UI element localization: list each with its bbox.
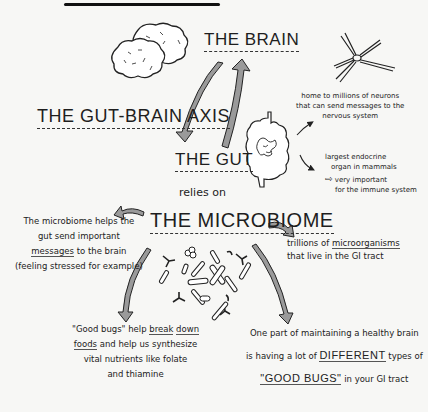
messages-note-line: (feeling stressed for example) [15, 259, 143, 274]
endocrine-note: largest endocrine organ in mammals ⇨ ver… [325, 152, 417, 195]
trillions-note-line: trillions of microorganisms [287, 237, 400, 250]
good-bugs-note-line: and thiamine [72, 367, 199, 382]
trillions-pre: trillions of [287, 238, 332, 248]
endocrine-note-line: largest endocrine [325, 152, 417, 162]
neurons-note: home to millions of neurons that can sen… [296, 91, 404, 121]
brain-icon [112, 23, 188, 77]
messages-underlined: messages [31, 246, 74, 257]
immune-note-line: very important [335, 176, 387, 184]
messages-note: The microbiome helps the gut send import… [15, 214, 143, 274]
messages-note-line: gut send important [15, 229, 143, 244]
bacteria-cluster-icon [159, 247, 251, 321]
relies-on-label: relies on [179, 186, 226, 199]
down-underlined: down [176, 324, 199, 335]
good-bugs-pre: "Good bugs" help [72, 324, 149, 334]
arrow-neurons-icon [297, 123, 311, 135]
microorganisms-underlined: microorganisms [332, 238, 400, 249]
trillions-note-line: that live in the GI tract [287, 250, 400, 263]
healthy-brain-note-line: is having a lot of DIFFERENT types of [246, 344, 423, 367]
healthy-brain-note: One part of maintaining a healthy brain … [246, 322, 423, 390]
gut-title: THE GUT [175, 150, 253, 172]
curved-arrow-icon [176, 59, 250, 148]
gi-tract-post: in your GI tract [341, 374, 408, 384]
good-bugs-rest: and help us synthesize [97, 339, 197, 349]
neurons-note-line: that can send messages to the [296, 101, 404, 111]
good-bugs-note: "Good bugs" help break down foods and he… [72, 322, 199, 382]
neuron-icon [334, 33, 395, 82]
arrow-endocrine-icon [300, 155, 312, 169]
brain-title: THE BRAIN [204, 30, 299, 52]
neurons-note-line: nervous system [296, 111, 404, 121]
good-bugs-underlined: "GOOD BUGS" [260, 372, 341, 385]
healthy-brain-post: types of [386, 351, 423, 361]
endocrine-note-line: organ in mammals [325, 162, 417, 172]
hollow-arrow-icon: ⇨ [325, 174, 333, 184]
break-underlined: break [149, 324, 173, 335]
different-underlined: DIFFERENT [319, 349, 385, 362]
healthy-brain-pre: is having a lot of [246, 351, 319, 361]
good-bugs-note-line: foods and help us synthesize [72, 337, 199, 352]
good-bugs-note-line: "Good bugs" help break down [72, 322, 199, 337]
messages-note-line: messages to the brain [15, 244, 143, 259]
gut-brain-axis-title: THE GUT-BRAIN AXIS [37, 106, 230, 129]
immune-note: ⇨ very important [325, 174, 417, 185]
good-bugs-note-line: vital nutrients like folate [72, 352, 199, 367]
healthy-brain-note-line: One part of maintaining a healthy brain [246, 322, 423, 344]
healthy-brain-note-line: "GOOD BUGS" in your GI tract [246, 367, 423, 390]
microbiome-title: THE MICROBIOME [150, 209, 334, 234]
trillions-note: trillions of microorganisms that live in… [287, 237, 400, 263]
foods-underlined: foods [74, 339, 97, 350]
neurons-note-line: home to millions of neurons [296, 91, 404, 101]
immune-note-line: for the immune system [325, 185, 417, 195]
messages-rest: to the brain [74, 246, 126, 256]
messages-note-line: The microbiome helps the [15, 214, 143, 229]
